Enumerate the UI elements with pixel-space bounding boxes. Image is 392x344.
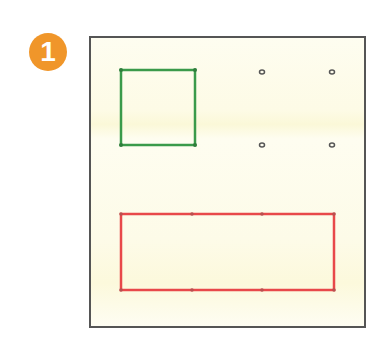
red-rectangle (121, 214, 334, 290)
grid-dots (260, 70, 335, 147)
green-square (121, 70, 195, 145)
drawing-canvas (0, 0, 392, 344)
green-square-corners (119, 68, 197, 147)
red-rectangle-points (119, 212, 336, 292)
